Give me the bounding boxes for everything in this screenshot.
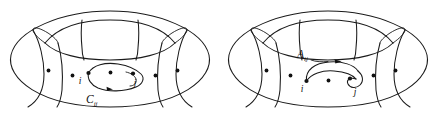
curve-label-aij-subscript: ij <box>304 55 308 63</box>
torus-hole-lower-edge-right <box>263 43 393 60</box>
lattice-dot <box>372 74 376 78</box>
directed-path-terminal-loop-aij <box>347 71 362 88</box>
site-label-j-left: j <box>132 78 137 88</box>
meridian-outer-left-2 <box>246 30 262 107</box>
meridian-top-left-1 <box>81 20 84 60</box>
torus-hole-right-cap-left-panel <box>162 28 187 43</box>
torus-hole-right-cap-right-panel <box>380 28 405 43</box>
figure-canvas: i j Cij <box>0 0 436 124</box>
loop-orientation-arrowhead-cij <box>107 87 114 91</box>
lattice-dot <box>154 74 158 78</box>
lattice-dot <box>109 71 113 75</box>
site-label-i-right: i <box>301 84 304 94</box>
torus-hole-upper-edge-right <box>263 20 393 43</box>
torus-hole-lower-edge-left <box>45 43 175 60</box>
meridian-outer-right-2 <box>394 30 410 107</box>
curve-label-cij: Cij <box>86 93 98 108</box>
lattice-dot <box>394 69 398 73</box>
meridian-top-right-2 <box>354 20 357 60</box>
lattice-dot <box>289 74 293 78</box>
site-label-i-left: i <box>79 76 82 86</box>
right-panel-torus: Aij i j <box>229 11 428 107</box>
torus-hole-upper-edge-left <box>45 20 175 43</box>
meridian-top-right-1 <box>136 20 139 60</box>
curve-label-cij-subscript: ij <box>94 100 98 108</box>
lattice-dot <box>71 74 75 78</box>
meridian-outer-left-1 <box>28 30 44 107</box>
torus-hole-left-cap-right-panel <box>251 28 276 43</box>
meridian-outer-right-1 <box>176 30 192 107</box>
lattice-dot <box>47 69 51 73</box>
lattice-dots-left <box>47 69 180 78</box>
site-label-j-right: j <box>352 87 357 97</box>
left-panel-torus: i j Cij <box>11 11 210 108</box>
torus-hole-left-cap-left-panel <box>33 28 58 43</box>
lattice-dot <box>327 79 331 83</box>
lattice-dot <box>176 69 180 73</box>
figure-two-tori: i j Cij <box>0 0 436 124</box>
lattice-dot <box>265 69 269 73</box>
